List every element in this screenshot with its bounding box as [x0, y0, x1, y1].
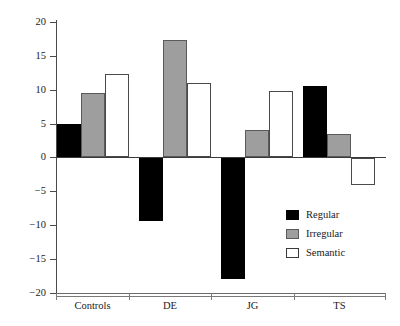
chart-legend: Regular Irregular Semantic: [286, 209, 345, 266]
y-tick-minus-5: [50, 191, 56, 192]
bar-de-semantic: [187, 83, 211, 158]
bottom-axis-line: [56, 293, 386, 294]
y-label-10: 10: [12, 85, 46, 96]
y-label-minus-10: −10: [12, 220, 46, 231]
x-label-ts: TS: [294, 300, 385, 312]
y-tick-20: [50, 22, 56, 23]
x-tick-start: [56, 293, 57, 300]
legend-swatch-irregular-icon: [286, 229, 299, 239]
bar-controls-irregular: [81, 93, 105, 157]
x-tick-1: [129, 293, 130, 300]
x-tick-2: [211, 293, 212, 300]
bar-jg-semantic: [269, 91, 293, 157]
y-label-0: 0: [12, 152, 46, 163]
category-axis-line: [56, 296, 386, 297]
y-label-minus-20: −20: [12, 288, 46, 299]
legend-item-irregular: Irregular: [286, 228, 345, 240]
bar-ts-irregular: [327, 134, 351, 157]
x-label-jg: JG: [211, 300, 294, 312]
y-label-minus-15: −15: [12, 254, 46, 265]
legend-label-regular: Regular: [306, 210, 339, 221]
x-tick-3: [294, 293, 295, 300]
y-tick-minus-10: [50, 225, 56, 226]
bar-ts-regular: [303, 86, 327, 157]
y-tick-15: [50, 56, 56, 57]
bar-jg-regular: [221, 158, 245, 280]
priming-bar-chart: Proportion of priming 20 15 10 5 0 −5 −1…: [0, 0, 400, 326]
bar-de-irregular: [163, 40, 187, 158]
bar-ts-semantic: [351, 158, 375, 185]
legend-label-semantic: Semantic: [306, 248, 345, 259]
y-tick-minus-15: [50, 259, 56, 260]
y-tick-10: [50, 90, 56, 91]
legend-item-semantic: Semantic: [286, 247, 345, 259]
y-label-minus-5: −5: [12, 186, 46, 197]
y-label-20: 20: [12, 17, 46, 28]
bar-de-regular: [139, 158, 163, 221]
x-label-controls: Controls: [56, 300, 129, 312]
legend-label-irregular: Irregular: [306, 229, 343, 240]
legend-item-regular: Regular: [286, 209, 345, 221]
bar-jg-irregular: [245, 130, 269, 157]
legend-swatch-semantic-icon: [286, 248, 299, 258]
y-label-15: 15: [12, 51, 46, 62]
bar-controls-regular: [57, 124, 81, 158]
x-tick-end: [385, 293, 386, 300]
x-label-de: DE: [129, 300, 211, 312]
zero-baseline: [56, 157, 386, 158]
y-label-5: 5: [12, 119, 46, 130]
legend-swatch-regular-icon: [286, 210, 299, 220]
bar-controls-semantic: [105, 74, 129, 157]
y-tick-5: [50, 124, 56, 125]
